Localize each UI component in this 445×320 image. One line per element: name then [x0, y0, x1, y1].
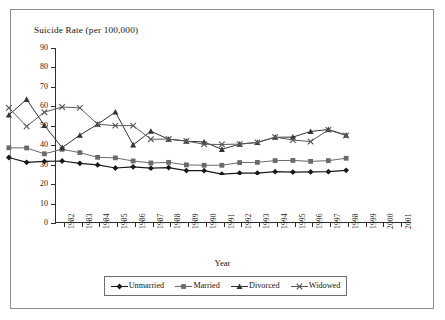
x-axis-tick [188, 222, 189, 227]
x-axis-tick [224, 222, 225, 227]
x-axis-tick-label: 1995 [298, 213, 307, 229]
x-axis-tick [383, 222, 384, 227]
x-axis-tick-label: 1982 [67, 213, 76, 229]
x-axis-tick [312, 222, 313, 227]
x-axis-tick [153, 222, 154, 227]
y-axis-tick-label: 0 [20, 218, 48, 227]
y-axis-tick-label: 20 [20, 179, 48, 188]
x-axis-tick-label: 1983 [85, 213, 94, 229]
x-axis-tick-label: 1987 [156, 213, 165, 229]
x-axis-tick-label: 1986 [138, 213, 147, 229]
legend-item-divorced[interactable]: Divorced [231, 282, 279, 291]
x-axis-tick [348, 222, 349, 227]
x-axis-tick-label: 1999 [369, 213, 378, 229]
x-axis-tick [170, 222, 171, 227]
x-axis-tick [99, 222, 100, 227]
legend-item-married[interactable]: Married [175, 282, 219, 291]
x-axis-tick-label: 1996 [315, 213, 324, 229]
x-axis-tick-label: 1991 [227, 213, 236, 229]
plot-series-svg [0, 0, 355, 175]
figure-container: Suicide Rate (per 100,000) 0102030405060… [0, 0, 445, 320]
legend-item-widowed[interactable]: Widowed [291, 282, 341, 291]
chart-legend: UnmarriedMarriedDivorcedWidowed [104, 276, 347, 296]
y-axis-tick [51, 184, 56, 185]
x-axis-tick-label: 2001 [404, 213, 413, 229]
x-axis-tick [401, 222, 402, 227]
cross-marker-icon [291, 282, 308, 291]
x-axis-tick [135, 222, 136, 227]
y-axis-tick-label: 10 [20, 199, 48, 208]
x-axis-tick-label: 1998 [351, 213, 360, 229]
x-axis-tick [330, 222, 331, 227]
y-axis-tick [51, 223, 56, 224]
x-axis-tick-label: 1990 [209, 213, 218, 229]
x-axis-title: Year [0, 258, 445, 268]
x-axis-tick-label: 1993 [262, 213, 271, 229]
diamond-marker-icon [111, 282, 128, 291]
series-divorced [6, 96, 349, 152]
legend-item-unmarried[interactable]: Unmarried [111, 282, 164, 291]
x-axis-tick [295, 222, 296, 227]
legend-label: Married [193, 282, 219, 290]
x-axis-tick-label: 1992 [244, 213, 253, 229]
legend-label: Widowed [309, 282, 341, 290]
x-axis-tick [366, 222, 367, 227]
x-axis-tick-label: 1994 [280, 213, 289, 229]
series-widowed [6, 104, 349, 147]
x-axis-tick-label: 1989 [191, 213, 200, 229]
y-axis-tick [51, 204, 56, 205]
series-unmarried [6, 155, 349, 175]
x-axis-tick-label: 1984 [102, 213, 111, 229]
legend-label: Divorced [249, 282, 279, 290]
x-axis-tick [259, 222, 260, 227]
legend-label: Unmarried [129, 282, 164, 290]
square-marker-icon [175, 282, 192, 291]
x-axis-tick-label: 1988 [173, 213, 182, 229]
x-axis-tick [206, 222, 207, 227]
triangle-marker-icon [231, 282, 248, 291]
series-married [6, 145, 348, 167]
x-axis-tick-label: 2000 [386, 213, 395, 229]
x-axis-tick [117, 222, 118, 227]
x-axis-tick [241, 222, 242, 227]
x-axis-tick [64, 222, 65, 227]
x-axis-tick [277, 222, 278, 227]
x-axis-tick [82, 222, 83, 227]
x-axis-tick-label: 1985 [120, 213, 129, 229]
x-axis-tick-label: 1997 [333, 213, 342, 229]
